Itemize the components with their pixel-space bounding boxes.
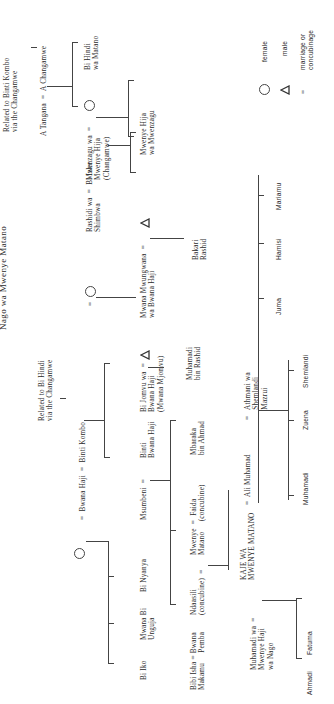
- person-bwana-haji: = Bwana Haji = Binti Kombo: [79, 422, 87, 520]
- person-zuena: Zuena: [302, 410, 310, 430]
- legend-female-label: female: [261, 41, 269, 62]
- connector: [84, 420, 104, 421]
- connector: [296, 598, 302, 599]
- connector: [128, 80, 129, 136]
- connector: [258, 410, 288, 411]
- connector: [128, 80, 134, 81]
- connector: [296, 598, 297, 658]
- person-a-tangana: A Tangana = A Changamwe: [40, 46, 48, 136]
- person-bi-nyanya: Bi Nyanya: [140, 559, 148, 592]
- note-related-hindi: Related to Bi Hindi via the Changamwe: [38, 360, 55, 421]
- connector: [288, 370, 294, 371]
- connector: [108, 576, 114, 577]
- person-mariamu: Mariamu: [275, 183, 283, 210]
- connector: [72, 42, 73, 106]
- person-mbaraka: Mbaraka bin Ahmad: [190, 421, 207, 455]
- connector: [130, 132, 131, 172]
- person-hamisi: Hamisi: [275, 238, 283, 260]
- legend-marriage-symbol: =: [300, 90, 308, 94]
- connector: [60, 398, 66, 399]
- connector: [96, 117, 128, 118]
- connector: [288, 420, 294, 421]
- person-muhamadi-bin-rashid: Muhamadi bin Rashid: [186, 347, 203, 380]
- connector: [104, 363, 110, 364]
- person-mwenye-matano: Mwenye = Faida Matano (concubine): [190, 484, 207, 555]
- connector: [31, 47, 37, 48]
- connector: [170, 420, 171, 604]
- connector: [108, 663, 114, 664]
- connector: [258, 298, 264, 299]
- person-athmani-wa-shemlandi: = Athmani wa Shemlandi Mazrui: [244, 372, 269, 420]
- female-icon: [84, 100, 95, 111]
- connector: [258, 175, 259, 503]
- connector: [96, 297, 136, 298]
- connector: [104, 457, 110, 458]
- female-icon: [85, 286, 96, 297]
- connector: [288, 360, 289, 500]
- person-shemlandi: Shemlandi: [302, 355, 310, 388]
- connector: [262, 600, 296, 601]
- person-kaje-wa-mwenye-matano: KAJE WA MWENYE MATANO: [240, 512, 257, 580]
- connector: [170, 420, 176, 421]
- diagram-title: Nago wa Mwenye Matano: [0, 226, 7, 330]
- connector: [86, 541, 108, 542]
- legend-male-label: male: [281, 41, 289, 56]
- person-ahmadi: Ahmadi: [306, 671, 314, 695]
- connector: [208, 565, 228, 566]
- connector: [150, 238, 184, 239]
- legend-marriage-label: marriage or concubinage: [299, 30, 316, 70]
- person-muhamadi: Muhamadi: [302, 472, 310, 505]
- female-icon: [74, 548, 85, 559]
- connector: [130, 132, 136, 133]
- person-muhamadi-wa-mwenye-haji: Muhamadi wa = Mwenye Haji wa Nago: [250, 618, 275, 670]
- connector: [130, 172, 136, 173]
- person-ali-muhamad: = Ali Muhamad: [244, 454, 252, 505]
- person-bi-hindi: Bi Hindi wa Matano: [84, 36, 101, 70]
- person-bi-iko: Bi Iko: [140, 660, 148, 680]
- connector: [108, 541, 109, 663]
- connector: [288, 495, 294, 496]
- connector: [148, 367, 164, 368]
- person-bi-jomvu: Bi Jomvu wa = Bwana Haji (Mwana Mjomvu): [140, 356, 165, 412]
- person-bakari-rashid: Bakari Rashid: [192, 239, 209, 260]
- person-bibi-isha: Bibi Isha = Bwana Makamu Pemba: [190, 632, 207, 690]
- person-fatuma: Fatuma: [306, 631, 314, 655]
- connector: [108, 623, 114, 624]
- connector: [170, 604, 176, 605]
- person-binti-bwana-haji: Binti Bwana Haji: [140, 421, 157, 458]
- person-mwana-bi-unguja: Mwana Bi Unguja: [140, 608, 157, 640]
- person-msumbeni: Msumbeni =: [140, 479, 148, 520]
- connector: [47, 86, 73, 87]
- person-mwenye-hija-wa-mwenzagu: Mwenye Hija wa Mwenzagu: [140, 110, 157, 155]
- connector: [170, 530, 176, 531]
- connector: [108, 145, 130, 146]
- person-mwana-mwungwana: Mwana Mwungwana = wa Bwana Haji: [140, 245, 157, 318]
- person-rashidi: Rashidi wa = Bi Izhe Shimbwa: [86, 162, 103, 232]
- legend-female-icon: [259, 84, 270, 95]
- note-related-kombo: Related to Binti Kombo via the Changamwe: [3, 58, 20, 132]
- connector: [296, 658, 302, 659]
- connector: [104, 363, 105, 457]
- connector: [128, 136, 134, 137]
- equals-sign: =: [87, 302, 95, 306]
- connector: [258, 243, 264, 244]
- person-juma: Juma: [275, 298, 283, 315]
- connector: [150, 480, 170, 481]
- connector: [258, 195, 264, 196]
- connector: [72, 106, 78, 107]
- connector: [72, 42, 78, 43]
- person-ndaasili: Ndaasili (concubine) =: [190, 570, 207, 615]
- connector: [228, 490, 229, 570]
